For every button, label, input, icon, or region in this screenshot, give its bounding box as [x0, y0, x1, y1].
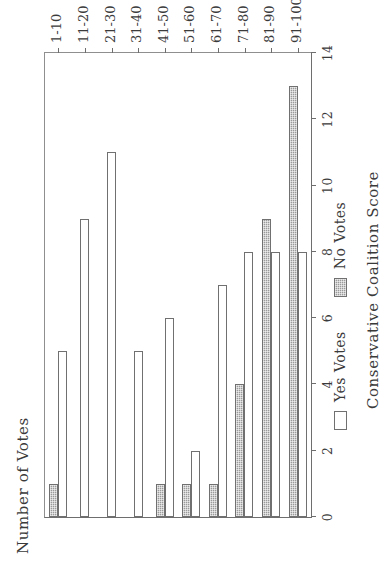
tick-mark [245, 48, 246, 53]
bar-yes-votes [191, 451, 200, 517]
tick-mark [298, 48, 299, 53]
tick-mark [311, 516, 316, 517]
tick-mark [271, 48, 272, 53]
value-tick-label: 10 [320, 177, 335, 194]
legend-entry[interactable]: Yes Votes [332, 331, 348, 430]
category-tick-label: 31-40 [129, 6, 144, 43]
category-tick-label: 41-50 [156, 6, 171, 43]
tick-mark [165, 48, 166, 53]
bar-group [151, 53, 178, 517]
tick-mark [311, 383, 316, 384]
bar-no-votes [289, 86, 298, 517]
bar-yes-votes [107, 152, 116, 517]
bar-chart-figure: Number of Votes 02468101214 1-1011-2021-… [0, 0, 388, 580]
category-tick-label: 21-30 [103, 6, 118, 43]
value-tick-label: 2 [320, 447, 335, 455]
tick-mark [138, 48, 139, 53]
bar-group [205, 53, 232, 517]
tick-mark [218, 48, 219, 53]
bar-yes-votes [271, 252, 280, 517]
bar-group [258, 53, 285, 517]
category-tick-label: 1-10 [49, 14, 64, 43]
plot-area: 02468101214 1-1011-2021-3031-4041-5051-6… [44, 52, 312, 518]
chart-legend: Yes VotesNo Votes [332, 202, 348, 430]
bar-yes-votes [298, 252, 307, 517]
bar-no-votes [235, 384, 244, 517]
tick-mark [311, 185, 316, 186]
tick-mark [311, 251, 316, 252]
category-tick-label: 11-20 [76, 6, 91, 43]
bar-group [284, 53, 311, 517]
bar-no-votes [182, 484, 191, 517]
category-axis-title: Conservative Coalition Score [364, 0, 382, 580]
category-tick-label: 91-100 [289, 0, 304, 43]
tick-mark [311, 317, 316, 318]
tick-mark [191, 48, 192, 53]
value-tick-label: 0 [320, 513, 335, 521]
bar-no-votes [262, 219, 271, 517]
legend-swatch-no-votes [334, 278, 347, 297]
tick-mark [311, 52, 316, 53]
figure-rotation-wrapper: Number of Votes 02468101214 1-1011-2021-… [0, 0, 388, 580]
bar-yes-votes [165, 318, 174, 517]
bar-no-votes [156, 484, 165, 517]
category-tick-label: 51-60 [182, 6, 197, 43]
tick-mark [85, 48, 86, 53]
bar-group [98, 53, 125, 517]
value-tick-label: 12 [320, 111, 335, 128]
bar-no-votes [49, 484, 58, 517]
category-tick-label: 81-90 [262, 6, 277, 43]
bar-group [231, 53, 258, 517]
category-tick-label: 61-70 [209, 6, 224, 43]
bar-group [45, 53, 72, 517]
bar-yes-votes [80, 219, 89, 517]
legend-entry[interactable]: No Votes [332, 202, 348, 297]
bar-no-votes [209, 484, 218, 517]
legend-label: Yes Votes [332, 331, 348, 402]
category-tick-label: 71-80 [236, 6, 251, 43]
tick-mark [58, 48, 59, 53]
legend-label: No Votes [332, 202, 348, 269]
value-axis-title: Number of Votes [14, 417, 32, 554]
bar-yes-votes [58, 351, 67, 517]
bar-yes-votes [134, 351, 143, 517]
tick-mark [311, 450, 316, 451]
bar-group [72, 53, 99, 517]
bar-group [125, 53, 152, 517]
bar-group [178, 53, 205, 517]
bar-series-container [45, 53, 311, 517]
tick-mark [311, 118, 316, 119]
bar-yes-votes [244, 252, 253, 517]
tick-mark [112, 48, 113, 53]
legend-swatch-yes-votes [334, 411, 347, 430]
value-tick-label: 14 [320, 45, 335, 62]
bar-yes-votes [218, 285, 227, 517]
